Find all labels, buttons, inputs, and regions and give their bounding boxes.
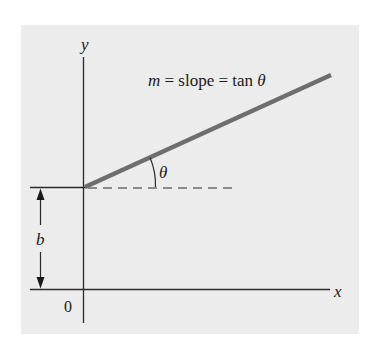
intercept-label: b [36,230,45,249]
slope-theta: θ [257,71,265,90]
slope-equation-text: = slope = tan [160,71,257,90]
angle-arc [150,158,156,188]
x-axis-label: x [333,282,342,301]
slope-line [85,75,331,187]
slope-symbol: m [148,71,160,90]
arrowhead-up-icon [37,189,45,201]
slope-equation: m = slope = tan θ [148,71,266,90]
y-axis-label: y [79,35,89,54]
angle-label: θ [159,163,167,182]
arrowhead-down-icon [37,277,45,289]
slope-diagram: y x 0 b θ m = slope = tan θ [0,0,377,338]
origin-label: 0 [64,298,72,315]
